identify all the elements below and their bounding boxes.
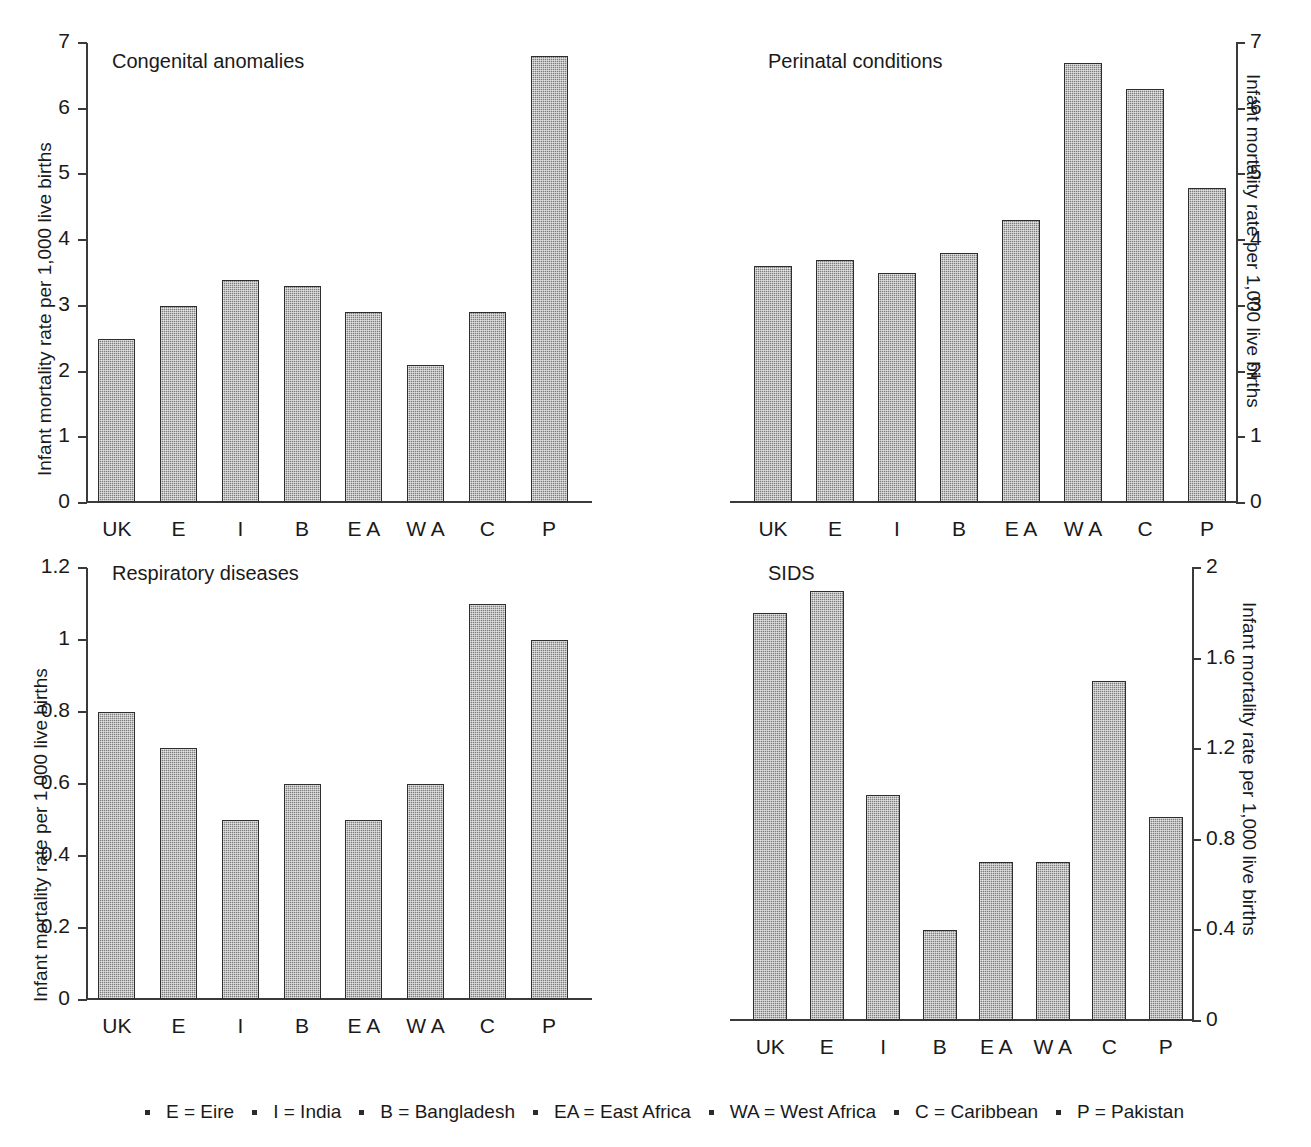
x-axis-label: C: [1114, 517, 1176, 541]
y-axis-tick-label: 0: [10, 490, 70, 511]
y-axis-tick-label: 0: [1206, 1008, 1218, 1029]
bar: [923, 930, 957, 1020]
bar: [940, 253, 977, 502]
bar: [98, 339, 135, 502]
x-axis-label: W A: [1025, 1035, 1082, 1059]
bullet-icon: [1056, 1110, 1061, 1115]
x-axis-label: C: [1081, 1035, 1138, 1059]
x-axis-label: P: [518, 1014, 580, 1038]
bar: [222, 820, 259, 999]
bar: [345, 312, 382, 502]
bar: [979, 862, 1013, 1020]
legend-item-label: P = Pakistan: [1077, 1101, 1184, 1123]
plot-area-perinatal: 01234567UKEIBE AW ACP: [742, 43, 1238, 503]
bar: [345, 820, 382, 999]
bar-series: [86, 568, 580, 1000]
y-axis-tick-label: 7: [10, 30, 70, 51]
bullet-icon: [359, 1110, 364, 1115]
legend-item-label: B = Bangladesh: [380, 1101, 515, 1123]
y-axis-tick-label: 6: [1250, 96, 1262, 117]
plot-area-respiratory: 00.20.40.60.811.2UKEIBE AW ACP: [86, 568, 580, 1000]
x-axis-label: P: [518, 517, 580, 541]
legend-item-label: WA = West Africa: [730, 1101, 876, 1123]
y-axis-tick-label: 2: [10, 359, 70, 380]
y-axis-tick-label: 3: [10, 293, 70, 314]
x-axis-label: C: [457, 517, 519, 541]
legend-item-label: EA = East Africa: [554, 1101, 691, 1123]
bar: [816, 260, 853, 502]
x-axis-label: E A: [990, 517, 1052, 541]
abbreviation-legend: E = EireI = IndiaB = BangladeshEA = East…: [0, 1092, 1311, 1132]
x-axis-label: UK: [742, 517, 804, 541]
bar: [531, 640, 568, 999]
bar: [1149, 817, 1183, 1020]
x-axis-label: E A: [333, 517, 395, 541]
bar-series: [86, 43, 580, 503]
bar: [531, 56, 568, 502]
bullet-icon: [709, 1110, 714, 1115]
y-axis-tick-label: 5: [10, 161, 70, 182]
x-axis-label: I: [855, 1035, 912, 1059]
y-axis-tick-label: 4: [10, 227, 70, 248]
y-axis-tick-label: 0.4: [10, 843, 70, 864]
bar-series: [742, 43, 1238, 503]
x-axis-label: I: [210, 1014, 272, 1038]
y-axis-tick-label: 0.6: [10, 771, 70, 792]
legend-item: C = Caribbean: [876, 1101, 1038, 1123]
legend-item: EA = East Africa: [515, 1101, 691, 1123]
y-axis-tick-label: 1: [10, 627, 70, 648]
x-axis-label: B: [928, 517, 990, 541]
bullet-icon: [145, 1110, 150, 1115]
y-axis-tick-label: 1: [10, 424, 70, 445]
x-axis-label: UK: [86, 1014, 148, 1038]
y-axis-tick-label: 4: [1250, 227, 1262, 248]
y-axis-tick-label: 1.2: [1206, 736, 1235, 757]
x-axis-label: B: [912, 1035, 969, 1059]
bar: [878, 273, 915, 502]
legend-item-label: I = India: [273, 1101, 341, 1123]
legend-item: P = Pakistan: [1038, 1101, 1184, 1123]
bar: [754, 266, 791, 502]
legend-item: I = India: [234, 1101, 341, 1123]
bar: [1064, 63, 1101, 502]
bar: [1092, 681, 1126, 1020]
y-axis-tick-label: 0: [10, 987, 70, 1008]
x-axis-label: I: [210, 517, 272, 541]
y-axis-tick-label: 2: [1206, 555, 1218, 576]
x-axis-label: E A: [333, 1014, 395, 1038]
y-axis-tick-label: 0.8: [10, 699, 70, 720]
bar: [1002, 220, 1039, 502]
x-axis-label: E: [799, 1035, 856, 1059]
chart-panel-perinatal: Infant mortality rate per 1,000 live bir…: [660, 14, 1311, 544]
legend-item-label: E = Eire: [166, 1101, 234, 1123]
x-axis-label: UK: [742, 1035, 799, 1059]
legend-item: WA = West Africa: [691, 1101, 876, 1123]
bullet-icon: [533, 1110, 538, 1115]
chart-panel-respiratory: Infant mortality rate per 1,000 live bir…: [0, 544, 640, 1084]
bar: [866, 795, 900, 1021]
y-axis-tick-label: 0: [1250, 490, 1262, 511]
y-axis-tick-label: 2: [1250, 359, 1262, 380]
legend-item: E = Eire: [127, 1101, 234, 1123]
chart-panel-sids: Infant mortality rate per 1,000 live bir…: [660, 544, 1311, 1084]
bullet-icon: [252, 1110, 257, 1115]
x-axis-label: C: [457, 1014, 519, 1038]
bar: [160, 306, 197, 502]
y-axis-tick-label: 0.8: [1206, 827, 1235, 848]
bar: [810, 591, 844, 1020]
x-axis-label: E A: [968, 1035, 1025, 1059]
plot-area-congenital: 01234567UKEIBE AW ACP: [86, 43, 580, 503]
x-axis-label: P: [1138, 1035, 1195, 1059]
bar: [98, 712, 135, 999]
x-axis-label: W A: [395, 517, 457, 541]
figure-root: Infant mortality rate per 1,000 live bir…: [0, 0, 1311, 1147]
y-axis-tick-label: 7: [1250, 30, 1262, 51]
x-axis-label: W A: [395, 1014, 457, 1038]
bar: [222, 280, 259, 502]
x-axis-label: E: [148, 517, 210, 541]
x-axis-label: E: [804, 517, 866, 541]
bar: [407, 784, 444, 999]
bar-series: [742, 568, 1194, 1021]
chart-panel-congenital: Infant mortality rate per 1,000 live bir…: [0, 14, 640, 544]
y-axis-tick-label: 1: [1250, 424, 1262, 445]
